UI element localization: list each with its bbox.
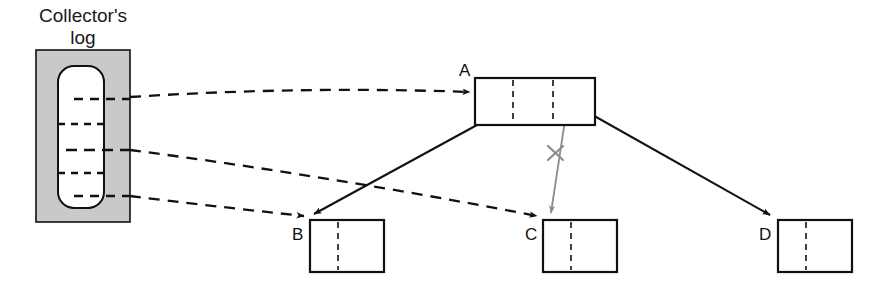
log-arrow-to-a [130, 90, 470, 97]
node-b-label: B [292, 225, 303, 244]
node-a-label: A [459, 61, 471, 80]
collector-log-diagram: Collector's log [0, 0, 874, 289]
node-c-box [543, 220, 617, 272]
log-arrow-to-c [130, 150, 537, 216]
node-d-box [778, 220, 852, 272]
collectors-log-title: Collector's log [39, 5, 127, 48]
node-a[interactable]: A [459, 61, 595, 125]
log-arrow-to-b [130, 196, 304, 216]
node-c-label: C [525, 225, 537, 244]
node-c[interactable]: C [525, 220, 617, 272]
node-d[interactable]: D [759, 220, 852, 272]
diagram-canvas: Collector's log [0, 0, 874, 289]
collectors-log-inner-rounded-rect [58, 66, 104, 208]
node-a-box [475, 78, 595, 125]
collectors-log-title-line1: Collector's [39, 5, 127, 26]
arrow-a-to-d [566, 100, 770, 215]
node-b-box [310, 220, 384, 272]
collectors-log-title-line2: log [70, 27, 95, 48]
node-d-label: D [759, 225, 771, 244]
node-b[interactable]: B [292, 220, 384, 272]
collectors-log[interactable] [36, 50, 130, 222]
